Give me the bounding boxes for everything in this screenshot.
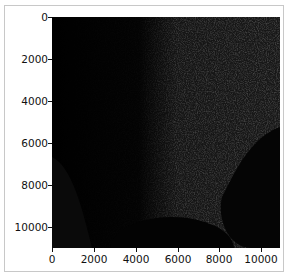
x-tick-mark bbox=[94, 248, 95, 252]
raster-image bbox=[52, 17, 280, 248]
y-tick-label: 4000 bbox=[21, 95, 48, 107]
y-tick-mark bbox=[48, 185, 52, 186]
y-tick-label: 10000 bbox=[15, 221, 48, 233]
x-tick-label: 0 bbox=[49, 253, 56, 265]
y-tick-mark bbox=[48, 101, 52, 102]
y-tick-label: 2000 bbox=[21, 53, 48, 65]
x-tick-mark bbox=[52, 248, 53, 252]
x-tick-mark bbox=[261, 248, 262, 252]
x-tick-label: 8000 bbox=[206, 253, 233, 265]
raster-texture bbox=[52, 17, 280, 248]
y-tick-mark bbox=[48, 143, 52, 144]
x-tick-label: 2000 bbox=[81, 253, 108, 265]
x-tick-mark bbox=[136, 248, 137, 252]
x-tick-label: 10000 bbox=[244, 253, 277, 265]
y-tick-label: 6000 bbox=[21, 137, 48, 149]
y-tick-mark bbox=[48, 17, 52, 18]
y-tick-label: 0 bbox=[41, 11, 48, 23]
x-tick-mark bbox=[178, 248, 179, 252]
x-tick-label: 4000 bbox=[123, 253, 150, 265]
x-tick-mark bbox=[219, 248, 220, 252]
y-tick-mark bbox=[48, 59, 52, 60]
x-tick-label: 6000 bbox=[165, 253, 192, 265]
y-tick-label: 8000 bbox=[21, 179, 48, 191]
y-tick-mark bbox=[48, 227, 52, 228]
